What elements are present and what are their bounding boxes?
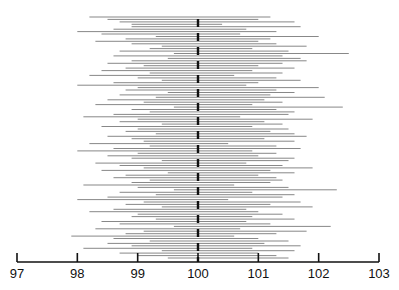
x-tick-label: 97	[10, 266, 24, 281]
x-tick-label: 98	[70, 266, 84, 281]
x-axis-ticks: 979899100101102103	[10, 253, 390, 281]
interval-lines	[71, 17, 349, 258]
x-tick-label: 103	[368, 266, 390, 281]
x-tick-label: 102	[308, 266, 330, 281]
x-tick-label: 99	[130, 266, 144, 281]
x-tick-label: 100	[187, 266, 209, 281]
confidence-interval-chart: 979899100101102103	[0, 0, 399, 290]
x-tick-label: 101	[247, 266, 269, 281]
